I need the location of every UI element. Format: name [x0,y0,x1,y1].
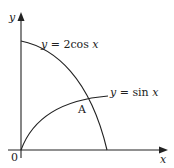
sin-curve-label: y = sin x [110,87,158,98]
sin-label-arg: x [152,86,158,99]
intersection-label: A [78,104,86,115]
cos-label-eq: = 2cos [47,38,92,51]
sin-curve [21,96,108,150]
cos-curve [21,41,107,150]
sin-label-eq: = sin [116,86,152,99]
x-axis-label: x [160,154,166,165]
graph-canvas [0,0,174,168]
cos-label-arg: x [92,38,98,51]
origin-label: 0 [11,152,18,163]
cos-curve-label: y = 2cos x [41,39,99,50]
y-axis-label: y [9,12,15,23]
graph-diagram: y x 0 y = 2cos x y = sin x A [0,0,174,168]
y-axis-arrow-icon [18,12,25,21]
